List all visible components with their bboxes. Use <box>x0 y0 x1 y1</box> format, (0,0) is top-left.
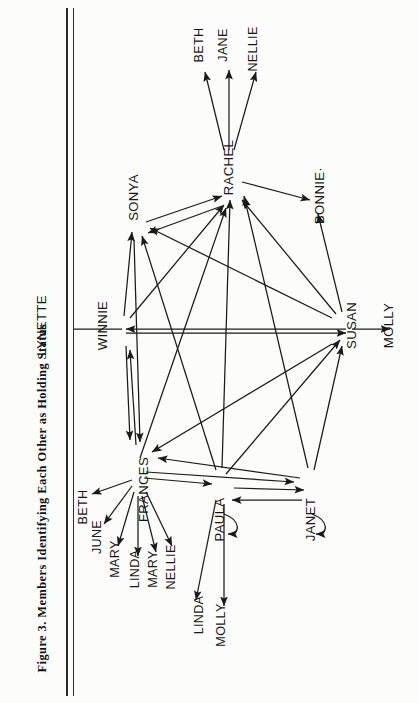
edge-janet-self-loop <box>312 514 325 534</box>
edge-paula-rachel <box>222 200 230 468</box>
edge-winnie-sonya <box>124 232 132 316</box>
edge-janet-susan <box>314 346 342 470</box>
edge-janet-frances <box>158 458 300 478</box>
edge-frances-nellie <box>146 492 172 546</box>
edge-paula-janet <box>234 488 304 490</box>
figure-caption: Figure 3. Members Identifying Each Other… <box>35 33 50 673</box>
edge-frances-june <box>104 486 132 524</box>
edge-frances-mary-1 <box>118 492 134 546</box>
edge-paula-linda <box>196 500 216 600</box>
edge-rachel-nellie <box>234 72 256 150</box>
edge-frances-beth <box>92 480 132 494</box>
edge-winnie-frances <box>126 346 130 440</box>
page-rule-outer <box>66 8 68 696</box>
edge-paula-self-loop <box>224 514 237 534</box>
edge-sonya-frances <box>134 240 140 442</box>
edge-group <box>74 70 390 606</box>
edge-frances-paula <box>144 478 212 484</box>
edge-janet-rachel <box>244 196 308 468</box>
sociogram-diagram <box>74 0 419 703</box>
edge-sonya-rachel <box>146 196 222 222</box>
figure-page: Figure 3. Members Identifying Each Other… <box>0 0 419 703</box>
edge-rachel-beth <box>205 72 224 150</box>
edge-susan-frances <box>152 344 332 452</box>
edge-frances-winnie <box>130 350 136 445</box>
edge-rachel-sonya <box>148 206 222 233</box>
edge-susan-sonya <box>150 228 332 318</box>
edge-frances-mary-2 <box>142 496 156 552</box>
edge-rachel-bonnie <box>242 182 310 200</box>
